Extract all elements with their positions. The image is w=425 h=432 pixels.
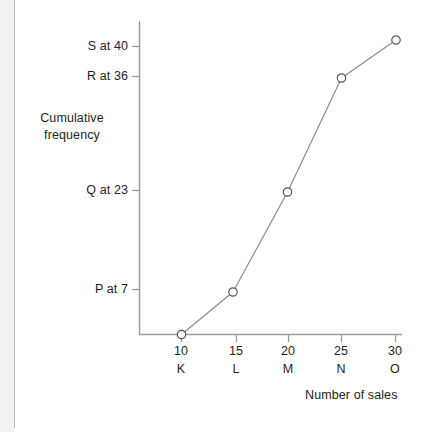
x-axis-title: Number of sales (305, 388, 398, 403)
y-axis-title: Cumulative frequency (14, 110, 130, 144)
cumulative-frequency-chart: S at 40 R at 36 Q at 23 P at 7 Cumulativ… (0, 0, 425, 432)
x-tick-letter-n: N (336, 362, 345, 377)
chart-canvas (0, 0, 425, 432)
y-tick-label-p: P at 7 (18, 282, 128, 297)
data-point-markers (177, 36, 400, 339)
y-tick-label-q: Q at 23 (18, 183, 128, 198)
data-point-l (229, 288, 237, 296)
x-tick-number-15: 15 (229, 344, 243, 359)
y-tick-label-r: R at 36 (18, 69, 128, 84)
data-point-m (283, 188, 291, 196)
x-tick-number-20: 20 (281, 344, 295, 359)
x-tick-letter-l: L (232, 362, 239, 377)
y-tick-label-s: S at 40 (18, 39, 128, 54)
y-axis-ticks (132, 47, 140, 290)
data-point-n (337, 74, 345, 82)
x-tick-letter-k: K (177, 362, 185, 377)
x-tick-letter-o: O (390, 362, 400, 377)
x-tick-letter-m: M (283, 362, 294, 377)
x-tick-number-30: 30 (388, 344, 402, 359)
x-axis-ticks (182, 335, 396, 343)
chart-page: S at 40 R at 36 Q at 23 P at 7 Cumulativ… (0, 0, 425, 432)
cumulative-frequency-line (182, 40, 397, 335)
y-axis-title-line1: Cumulative (14, 110, 130, 127)
data-point-o (392, 36, 400, 44)
x-tick-number-10: 10 (174, 344, 188, 359)
y-axis-title-line2: frequency (14, 127, 130, 144)
x-tick-number-25: 25 (334, 344, 348, 359)
data-point-k (177, 330, 185, 338)
